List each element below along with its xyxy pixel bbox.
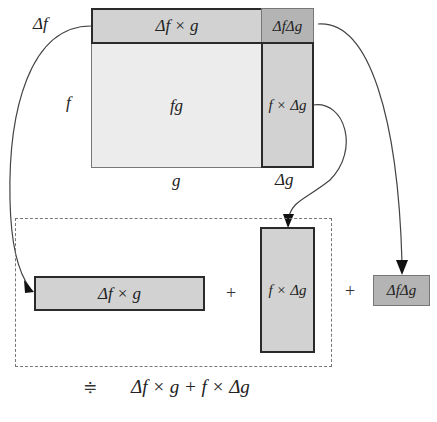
plus-sign-2: + <box>345 281 355 302</box>
region-fg: fg <box>91 43 262 168</box>
region-delta-f-delta-g-label: ΔfΔg <box>273 18 302 35</box>
term-delta-f-delta-g-label: ΔfΔg <box>387 282 416 299</box>
region-delta-f-delta-g: ΔfΔg <box>261 8 314 44</box>
f-label: f <box>66 93 71 113</box>
approx-symbol: ≑ <box>83 377 97 398</box>
region-delta-f-times-g-label: Δf × g <box>155 16 198 36</box>
approx-expression: Δf × g + f × Δg <box>131 376 250 398</box>
region-f-times-delta-g: f × Δg <box>261 42 314 168</box>
region-delta-f-times-g: Δf × g <box>91 8 263 44</box>
delta-g-label: Δg <box>275 170 293 190</box>
plus-sign-1: + <box>226 283 236 304</box>
term-f-times-delta-g-label: f × Δg <box>268 282 306 299</box>
term-delta-f-delta-g: ΔfΔg <box>373 275 430 306</box>
term-f-times-delta-g: f × Δg <box>260 227 315 353</box>
region-fg-label: fg <box>170 96 183 116</box>
term-delta-f-times-g-label: Δf × g <box>98 284 141 304</box>
term-delta-f-times-g: Δf × g <box>34 276 205 311</box>
region-f-times-delta-g-label: f × Δg <box>268 97 306 114</box>
g-label: g <box>172 171 181 191</box>
delta-f-label: Δf <box>33 14 48 34</box>
